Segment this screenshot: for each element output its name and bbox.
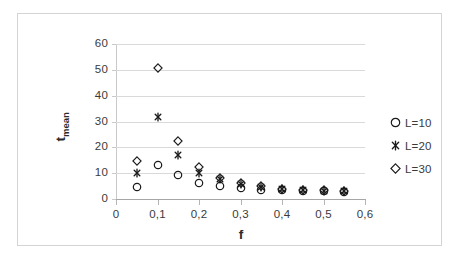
x-axis-tick [116,200,117,205]
data-point [132,156,142,166]
data-point [194,178,204,188]
x-axis-tick-label: 0,2 [177,208,221,220]
y-axis-tick-label: 10 [48,166,108,178]
y-axis-title: tmean [36,92,76,162]
x-axis-tick-label: 0,4 [260,208,304,220]
x-axis-tick [158,200,159,205]
y-axis-title-base: t [53,137,68,142]
data-point [153,112,163,122]
data-point [173,136,183,146]
legend-item-label: L=10 [405,117,432,129]
data-point [173,170,183,180]
x-axis-tick [365,200,366,205]
legend-item-l-20[interactable]: L=20 [390,134,452,157]
data-point [298,185,308,195]
x-axis-tick [324,200,325,205]
diamond-open-icon [390,163,402,175]
legend-item-l-10[interactable]: L=10 [390,111,452,134]
y-axis-tick-label: 0 [48,192,108,204]
x-axis-tick-label: 0,5 [302,208,346,220]
data-point [256,181,266,191]
data-point [173,150,183,160]
y-axis-tick-label: 50 [48,63,108,75]
data-point [319,185,329,195]
data-point [194,162,204,172]
legend-item-l-30[interactable]: L=30 [390,157,452,180]
x-axis-tick-label: 0,3 [219,208,263,220]
x-axis-tick [282,200,283,205]
y-axis-tick-label: 60 [48,37,108,49]
data-point [277,184,287,194]
circle-open-icon [390,117,402,129]
asterisk-icon [390,140,402,152]
chart-frame: 0102030405060 00,10,20,30,40,50,6 f tmea… [17,13,442,246]
x-axis-tick [199,200,200,205]
data-point [215,173,225,183]
data-point [153,63,163,73]
data-point [339,186,349,196]
scatter-chart: 0102030405060 00,10,20,30,40,50,6 f tmea… [0,0,459,266]
x-axis-tick [241,200,242,205]
x-axis-tick-label: 0 [94,208,138,220]
data-point [132,168,142,178]
y-axis-title-subscript: mean [60,112,71,137]
data-point [132,182,142,192]
legend-item-label: L=30 [405,163,432,175]
legend-item-label: L=20 [405,140,432,152]
data-point [236,178,246,188]
legend: L=10L=20L=30 [390,111,452,180]
x-axis-tick-label: 0,1 [136,208,180,220]
data-point [153,160,163,170]
x-axis-title: f [116,227,366,242]
x-axis-tick-label: 0,6 [343,208,387,220]
plot-area [116,44,365,199]
